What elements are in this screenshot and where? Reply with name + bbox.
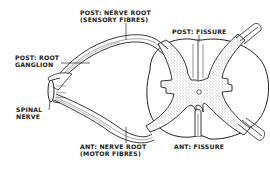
post-root-ganglion-label: POST: ROOT GANGLION [15,54,59,69]
anterior-nerve-root [54,94,154,143]
spinal-cord-diagram: POST: NERVE ROOT (SENSORY FIBRES) POST: … [0,0,270,170]
spinal-nerve-cut-end [48,80,54,102]
spinal-nerve-label-line2: NERVE [16,113,42,120]
post-nerve-root-label: POST: NERVE ROOT (SENSORY FIBRES) [80,9,151,24]
post-nerve-root-label-line2: (SENSORY FIBRES) [80,16,151,23]
ant-nerve-root-label: ANT: NERVE ROOT (MOTOR FIBRES) [80,143,146,158]
post-root-ganglion-label-line2: GANGLION [15,61,59,68]
ant-nerve-root-label-line2: (MOTOR FIBRES) [80,150,146,157]
post-nerve-root-label-line1: POST: NERVE ROOT [80,9,151,16]
ant-nerve-root-label-line1: ANT: NERVE ROOT [80,143,146,150]
spinal-nerve-label: SPINAL NERVE [16,106,42,121]
spinal-nerve-label-line1: SPINAL [16,106,42,113]
central-canal [197,90,201,94]
post-root-ganglion-label-line1: POST: ROOT [15,54,59,61]
ant-fissure-label: ANT: FISSURE [174,143,224,150]
post-fissure-label: POST: FISSURE [172,28,227,35]
